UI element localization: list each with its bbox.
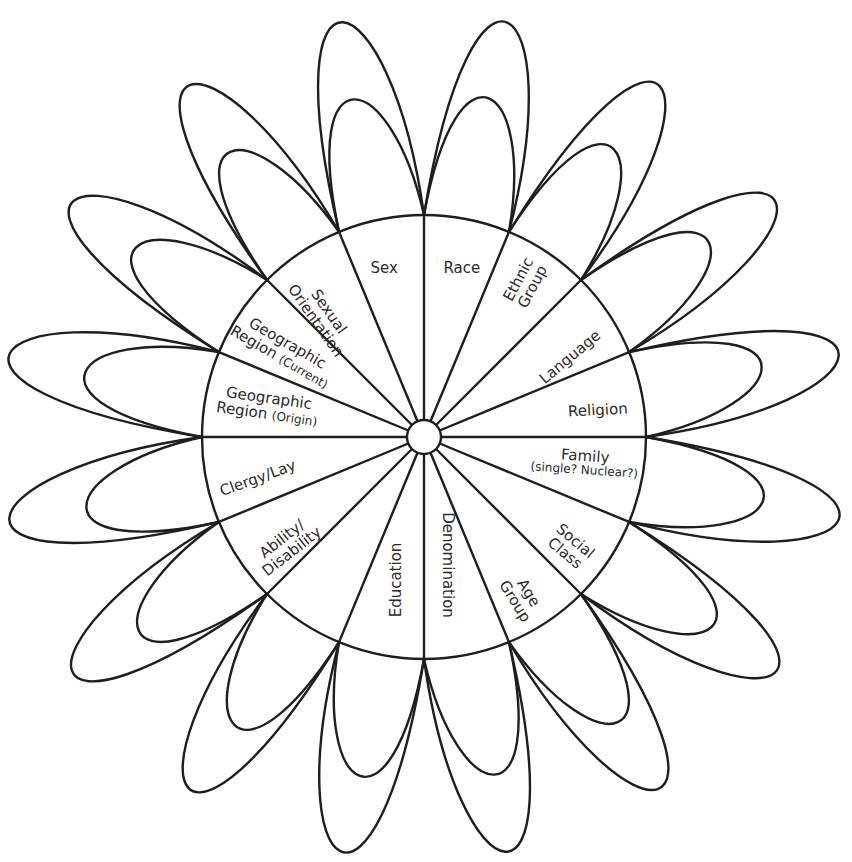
inner-petal	[334, 642, 424, 777]
label-sex: Sex	[371, 260, 398, 276]
inner-petal	[219, 150, 339, 280]
inner-petal	[329, 99, 424, 232]
outer-petal	[183, 594, 339, 792]
label-religion: Religion	[568, 400, 628, 419]
outer-petal	[581, 522, 779, 678]
outer-petal	[71, 522, 267, 681]
inner-petal	[227, 594, 339, 730]
outer-petal	[509, 594, 668, 790]
inner-petal	[581, 522, 717, 634]
inner-petal	[629, 437, 764, 527]
center-hub	[407, 420, 441, 454]
label-denomination: Denomination	[440, 512, 456, 618]
inner-petal	[424, 97, 514, 232]
inner-petal	[86, 437, 219, 532]
inner-petal	[137, 522, 267, 642]
inner-petal	[629, 342, 762, 437]
outer-petal	[180, 84, 339, 280]
outer-petal	[509, 82, 665, 280]
inner-petal	[581, 232, 711, 352]
label-education: Education	[388, 543, 404, 618]
outer-petal	[581, 193, 777, 352]
inner-petal	[84, 347, 219, 437]
diversity-flower-diagram	[0, 0, 852, 862]
label-race: Race	[444, 260, 481, 276]
inner-petal	[424, 642, 519, 775]
